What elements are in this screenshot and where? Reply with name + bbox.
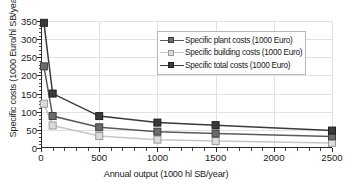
x-tick-minor	[181, 148, 182, 151]
data-point-marker	[212, 138, 219, 145]
x-tick-minor	[251, 148, 252, 151]
data-point-marker	[40, 19, 47, 26]
x-tick-minor	[227, 148, 228, 151]
x-tick-minor	[146, 148, 147, 151]
x-tick-minor	[309, 148, 310, 151]
legend-item: Specific plant costs (1000 Euro)	[160, 34, 302, 47]
x-tick-label: 1500	[193, 152, 239, 163]
chart-legend: Specific plant costs (1000 Euro)Specific…	[157, 31, 306, 75]
legend-item: Specific building costs (1000 Euro)	[160, 47, 302, 60]
data-point-marker	[154, 128, 161, 135]
data-point-marker	[96, 124, 103, 131]
y-tick-label: 250	[0, 52, 37, 63]
x-tick-minor	[285, 148, 286, 151]
x-tick-label: 0	[18, 152, 64, 163]
y-tick-label: 300	[0, 34, 37, 45]
legend-marker-icon	[160, 35, 184, 46]
x-tick-label: 500	[76, 152, 122, 163]
legend-item: Specific total costs (1000 Euro)	[160, 59, 302, 72]
x-tick-minor	[204, 148, 205, 151]
x-tick-minor	[262, 148, 263, 151]
data-point-marker	[49, 90, 56, 97]
data-point-marker	[96, 113, 103, 120]
x-tick-minor	[64, 148, 65, 151]
x-tick-minor	[88, 148, 89, 151]
data-point-marker	[154, 136, 161, 143]
x-tick-minor	[76, 148, 77, 151]
y-tick-label: 200	[0, 70, 37, 81]
x-tick-minor	[122, 148, 123, 151]
data-point-marker	[49, 122, 56, 129]
x-tick-minor	[192, 148, 193, 151]
data-point-marker	[212, 130, 219, 137]
x-axis-title: Annual output (1000 hl SB/year)	[0, 169, 332, 179]
x-tick-minor	[169, 148, 170, 151]
data-point-marker	[96, 133, 103, 140]
legend-square-icon	[168, 50, 174, 56]
x-tick-minor	[297, 148, 298, 151]
data-point-marker	[49, 113, 56, 120]
data-point-marker	[40, 63, 47, 70]
x-tick-minor	[134, 148, 135, 151]
data-point-marker	[329, 139, 336, 146]
y-tick-label: 150	[0, 88, 37, 99]
x-tick-minor	[111, 148, 112, 151]
series-line	[44, 66, 332, 136]
x-tick-minor	[239, 148, 240, 151]
x-tick-label: 2500	[309, 152, 347, 163]
legend-marker-icon	[160, 60, 184, 71]
data-point-marker	[154, 119, 161, 126]
data-point-marker	[212, 122, 219, 129]
legend-label: Specific building costs (1000 Euro)	[185, 48, 302, 57]
x-tick-minor	[53, 148, 54, 151]
legend-label: Specific total costs (1000 Euro)	[185, 61, 290, 70]
x-tick-minor	[320, 148, 321, 151]
legend-marker-icon	[160, 47, 184, 58]
legend-square-icon	[168, 37, 174, 43]
data-point-marker	[329, 127, 336, 134]
y-tick-label: 100	[0, 106, 37, 117]
y-tick-label: 50	[0, 124, 37, 135]
data-point-marker	[40, 100, 47, 107]
x-tick-label: 2000	[251, 152, 297, 163]
x-tick-label: 1000	[134, 152, 180, 163]
legend-square-icon	[168, 62, 174, 68]
y-tick-label: 350	[0, 16, 37, 27]
legend-label: Specific plant costs (1000 Euro)	[185, 36, 293, 45]
